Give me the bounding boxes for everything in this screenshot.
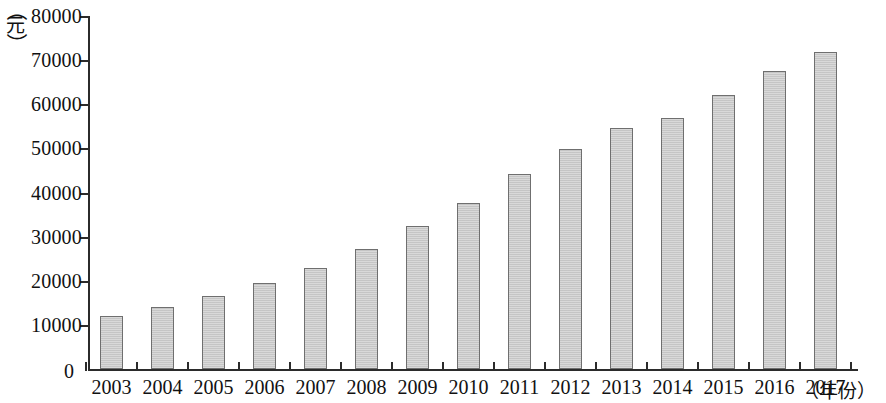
- x-axis-line: [88, 369, 858, 371]
- x-tick-mark: [187, 362, 189, 371]
- y-tick-label-50000: 50000: [31, 137, 82, 160]
- bar-2004: [151, 307, 174, 369]
- x-unit-open-paren: （: [800, 381, 819, 402]
- x-tick-label-2014: 2014: [653, 376, 693, 399]
- y-tick-label-20000: 20000: [31, 270, 82, 293]
- bar-2016: [763, 71, 786, 369]
- bar-2011: [508, 174, 531, 369]
- x-tick-mark: [442, 362, 444, 371]
- x-tick-label-2013: 2013: [602, 376, 642, 399]
- y-tick-label-40000: 40000: [31, 182, 82, 205]
- bar-2009: [406, 226, 429, 369]
- bar-2010: [457, 203, 480, 369]
- x-tick-label-2005: 2005: [194, 376, 234, 399]
- x-tick-mark: [544, 362, 546, 371]
- y-tick-label-70000: 70000: [31, 49, 82, 72]
- x-tick-label-2015: 2015: [704, 376, 744, 399]
- y-tick-label-10000: 10000: [31, 314, 82, 337]
- x-tick-label-2007: 2007: [296, 376, 336, 399]
- x-tick-label-2008: 2008: [347, 376, 387, 399]
- x-tick-label-2016: 2016: [755, 376, 795, 399]
- x-tick-mark: [340, 362, 342, 371]
- x-tick-mark: [850, 362, 852, 371]
- bar-2005: [202, 296, 225, 369]
- x-tick-mark: [697, 362, 699, 371]
- bar-2013: [610, 128, 633, 369]
- x-tick-label-2004: 2004: [143, 376, 183, 399]
- bar-2017: [814, 52, 837, 369]
- x-tick-mark: [391, 362, 393, 371]
- y-tick-label-0: 0: [64, 360, 74, 383]
- bar-2006: [253, 283, 276, 369]
- x-tick-mark: [748, 362, 750, 371]
- x-tick-mark: [646, 362, 648, 371]
- bar-2008: [355, 249, 378, 369]
- x-tick-mark: [136, 362, 138, 371]
- bar-2014: [661, 118, 684, 370]
- x-tick-mark: [595, 362, 597, 371]
- y-unit-close-paren: ）: [11, 31, 20, 57]
- y-unit-open-paren: （: [11, 0, 20, 24]
- y-tick-label-30000: 30000: [31, 226, 82, 249]
- x-tick-label-2009: 2009: [398, 376, 438, 399]
- bar-2012: [559, 149, 582, 369]
- x-tick-mark: [289, 362, 291, 371]
- bar-2003: [100, 316, 123, 369]
- x-tick-label-2003: 2003: [92, 376, 132, 399]
- x-axis-unit-label: （年份）: [800, 376, 876, 403]
- y-tick-label-80000: 80000: [31, 5, 82, 28]
- bar-2015: [712, 95, 735, 369]
- y-axis-line: [88, 16, 90, 371]
- plot-area: 1000020000300004000050000600007000080000: [88, 16, 858, 371]
- x-tick-label-2011: 2011: [500, 376, 539, 399]
- x-tick-label-2012: 2012: [551, 376, 591, 399]
- x-unit-close-paren: ）: [857, 381, 876, 402]
- x-unit-character: 年份: [819, 380, 857, 402]
- y-tick-label-60000: 60000: [31, 93, 82, 116]
- x-tick-label-2006: 2006: [245, 376, 285, 399]
- bar-2007: [304, 268, 327, 369]
- x-tick-mark: [493, 362, 495, 371]
- y-axis-unit-label: （ 元 ）: [2, 6, 28, 66]
- x-tick-label-2010: 2010: [449, 376, 489, 399]
- x-tick-mark: [799, 362, 801, 371]
- x-tick-mark: [85, 362, 87, 371]
- x-tick-mark: [238, 362, 240, 371]
